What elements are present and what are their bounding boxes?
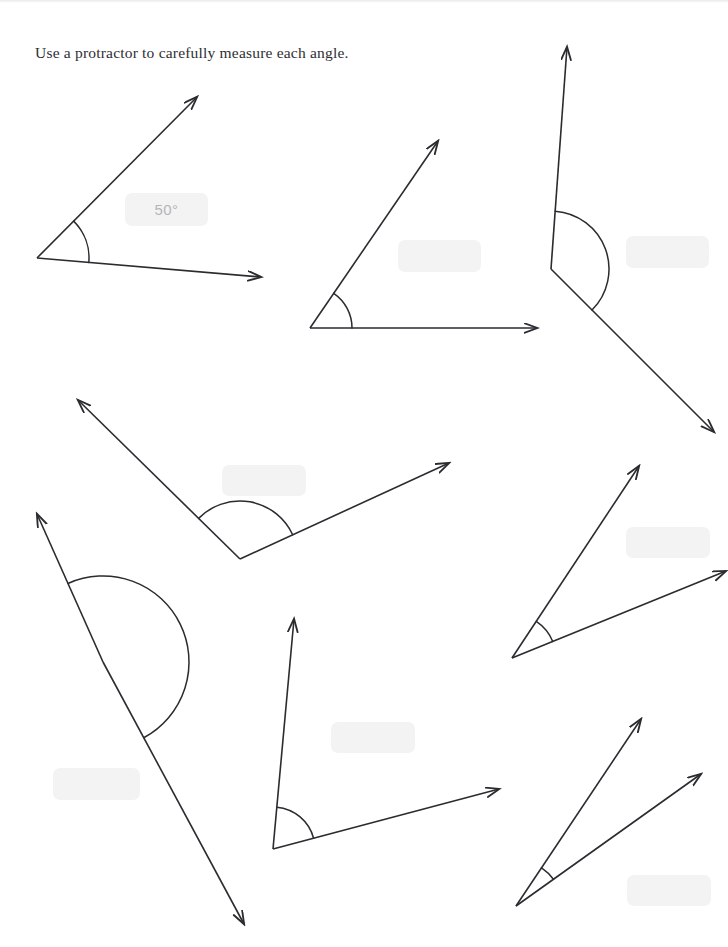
answer-field-3[interactable] [626, 236, 709, 268]
angle-4-ray-a [78, 400, 240, 559]
worksheet-page: Use a protractor to carefully measure ea… [0, 0, 728, 947]
angle-5-arc-marker [68, 576, 189, 738]
answer-field-8[interactable] [627, 875, 711, 906]
angle-6-ray-b [273, 789, 499, 849]
angle-6-arc-marker [277, 807, 314, 838]
answer-field-6[interactable] [331, 722, 415, 753]
angle-figure-2 [310, 141, 537, 328]
answer-field-4[interactable] [222, 465, 306, 496]
angle-3-arc-marker [555, 211, 609, 310]
angle-1-ray-a [37, 97, 197, 258]
angle-4-arc-marker [199, 501, 293, 535]
angle-1-ray-b [37, 258, 261, 277]
angle-7-arc-marker [536, 621, 552, 641]
answer-field-7[interactable] [626, 527, 710, 558]
angle-8-arc-marker [542, 868, 554, 880]
angle-figure-5 [37, 514, 244, 924]
answer-field-2[interactable] [398, 240, 481, 272]
answer-field-1[interactable]: 50° [125, 193, 208, 226]
angle-2-arc-marker [334, 293, 352, 328]
angle-6-ray-a [273, 619, 294, 849]
angle-2-ray-a [310, 141, 438, 328]
angle-7-ray-b [512, 571, 726, 658]
angle-figure-1 [37, 97, 261, 277]
angle-8-ray-a [516, 719, 641, 906]
angle-figures-layer [0, 0, 728, 947]
angle-7-ray-a [512, 466, 639, 658]
angle-figure-7 [512, 466, 726, 658]
answer-field-5[interactable] [53, 768, 140, 800]
angle-3-ray-b [551, 269, 714, 432]
angle-5-ray-a [37, 514, 103, 662]
angle-1-arc-marker [74, 221, 89, 262]
angle-3-ray-a [551, 47, 567, 269]
